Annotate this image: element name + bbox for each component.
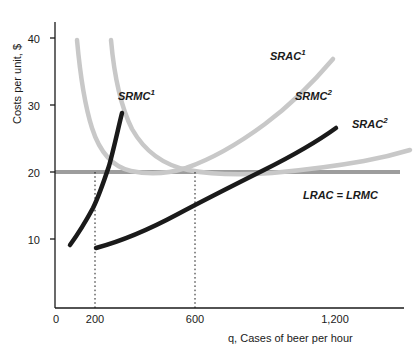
curve-label-srmc1-text: SRMC [118, 90, 150, 102]
x-axis-title: q, Cases of beer per hour [228, 332, 353, 344]
curve-label-srac1-text: SRAC [270, 50, 301, 62]
curve-label-srac1-superscript: 1 [301, 48, 305, 57]
x-tick-label-0: 0 [34, 313, 78, 325]
curve-label-srac2: SRAC2 [352, 118, 388, 130]
curve-label-srmc2-superscript: 2 [327, 88, 331, 97]
curve-label-srmc2-text: SRMC [295, 90, 327, 102]
cost-curves-figure: Costs per unit, $ q, Cases of beer per h… [0, 0, 415, 357]
x-tick-label-600: 600 [173, 313, 217, 325]
curve-label-srmc1: SRMC1 [118, 90, 155, 102]
chart-canvas [0, 0, 415, 357]
y-tick-label-10: 10 [14, 234, 40, 246]
x-tick-label-1200: 1,200 [313, 313, 357, 325]
y-axis-title: Costs per unit, $ [11, 29, 23, 139]
curve-label-lrac-lrmc-text: LRAC = LRMC [303, 189, 378, 201]
curve-label-srmc1-superscript: 1 [150, 88, 154, 97]
curve-label-srmc2: SRMC2 [295, 90, 332, 102]
curve-label-srac2-text: SRAC [352, 118, 383, 130]
y-tick-label-30: 30 [14, 100, 40, 112]
curve-label-srac2-superscript: 2 [383, 116, 387, 125]
y-tick-label-20: 20 [14, 167, 40, 179]
curve-label-lrac-lrmc: LRAC = LRMC [303, 189, 378, 201]
chart-background [0, 0, 415, 357]
x-tick-label-200: 200 [73, 313, 117, 325]
curve-label-srac1: SRAC1 [270, 50, 306, 62]
y-tick-label-40: 40 [14, 33, 40, 45]
